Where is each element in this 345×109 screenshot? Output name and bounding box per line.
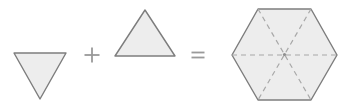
equals-top-bar (192, 52, 205, 54)
upward-triangle-group (115, 10, 175, 56)
plus-vertical-bar (91, 48, 93, 63)
geometry-figure (0, 0, 345, 109)
geometry-canvas (0, 0, 345, 109)
upward-triangle (115, 10, 175, 56)
downward-triangle-group (14, 53, 66, 99)
downward-triangle (14, 53, 66, 99)
plus-sign (85, 48, 100, 63)
hexagon-group (232, 9, 337, 100)
equals-sign (192, 52, 205, 59)
equals-bottom-bar (192, 57, 205, 59)
hexagon-center-point (283, 53, 286, 56)
